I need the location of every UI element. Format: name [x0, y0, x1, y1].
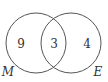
region-intersection-count: 3: [50, 37, 58, 51]
region-only-e-count: 4: [83, 37, 91, 51]
venn-diagram: 9 3 4 M E: [0, 0, 108, 82]
region-only-m-count: 9: [17, 37, 25, 51]
set-label-e: E: [93, 65, 103, 79]
set-label-m: M: [1, 65, 15, 79]
